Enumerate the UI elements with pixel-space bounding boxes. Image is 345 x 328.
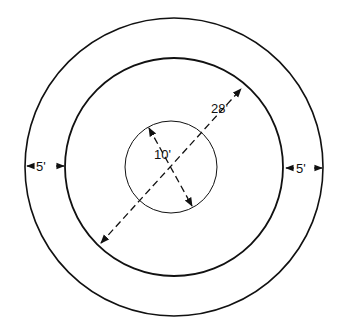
right-gap-label: 5' [296, 161, 306, 176]
left-gap-label: 5' [36, 159, 46, 174]
inner-diameter-line [149, 128, 192, 206]
outer-circle [25, 18, 323, 316]
inner-diameter-label: 10' [154, 147, 171, 162]
concentric-circles-diagram: 28' 10' 5' 5' [0, 0, 345, 328]
middle-diameter-label: 28' [211, 101, 228, 116]
middle-circle [65, 58, 283, 276]
